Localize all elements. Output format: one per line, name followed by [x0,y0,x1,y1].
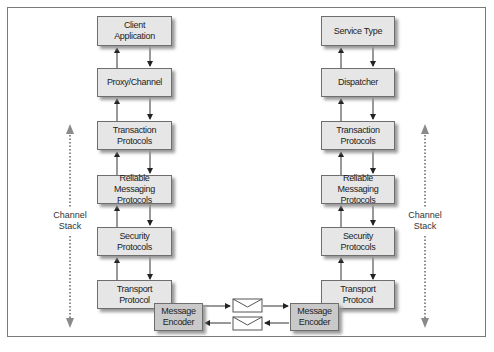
service-type-box: Service Type [321,16,395,46]
connectors-layer [0,0,494,352]
left-security-protocols-box: Security Protocols [97,227,172,256]
right-transaction-protocols-box: Transaction Protocols [321,121,395,150]
right-reliable-messaging-box: Reliable Messaging Protocols [321,175,395,204]
left-channel-stack-label: Channel Stack [52,209,88,233]
left-reliable-messaging-box: Reliable Messaging Protocols [97,175,172,204]
dispatcher-box: Dispatcher [321,68,395,97]
envelope-icon [233,317,262,330]
right-message-encoder-box: Message Encoder [290,303,339,331]
left-message-encoder-box: Message Encoder [154,303,203,331]
right-security-protocols-box: Security Protocols [321,227,395,256]
proxy-channel-box: Proxy/Channel [97,68,172,97]
envelope-icon [233,299,262,312]
right-channel-stack-label: Channel Stack [407,209,443,233]
left-transaction-protocols-box: Transaction Protocols [97,121,172,150]
client-application-box: Client Application [97,16,172,46]
